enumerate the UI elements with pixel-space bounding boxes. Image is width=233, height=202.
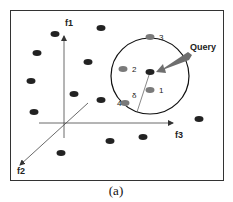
- query-point: [146, 69, 155, 75]
- data-point: [57, 150, 66, 156]
- data-point: [195, 116, 204, 122]
- neighbor-points: 3214: [117, 33, 164, 108]
- neighbor-label: 1: [159, 86, 164, 95]
- knn-diagram: f1 f3 f2 δ 3214 Query (a): [0, 0, 233, 202]
- neighbor-label: 3: [159, 33, 164, 42]
- neighbor-point: [119, 66, 128, 72]
- data-point: [33, 50, 42, 56]
- data-point: [30, 109, 39, 115]
- data-point: [84, 59, 93, 65]
- neighbor-point: [146, 87, 155, 93]
- radius-label: δ: [132, 91, 137, 100]
- neighbor-point: [121, 100, 130, 106]
- neighbor-point: [146, 34, 155, 40]
- f2-label: f2: [17, 166, 25, 176]
- figure-caption: (a): [109, 183, 123, 198]
- f1-label: f1: [65, 18, 73, 28]
- data-point: [27, 78, 36, 84]
- neighbor-label: 2: [132, 65, 137, 74]
- data-point: [97, 97, 106, 103]
- data-point: [139, 134, 148, 140]
- data-point: [51, 31, 60, 37]
- data-point: [106, 138, 115, 144]
- data-point: [97, 25, 106, 31]
- query-label: Query: [190, 42, 216, 52]
- neighbor-label: 4: [117, 99, 122, 108]
- data-point: [70, 91, 79, 97]
- f3-label: f3: [175, 130, 183, 140]
